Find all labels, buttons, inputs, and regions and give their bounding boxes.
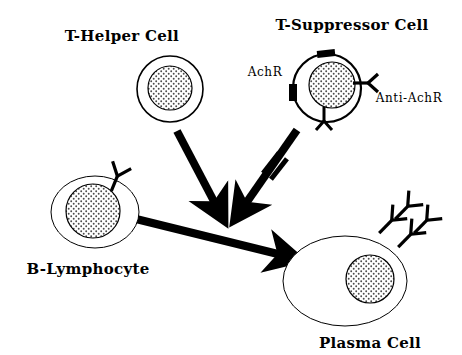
- plasma-cell-label: Plasma Cell: [319, 334, 421, 352]
- arrow-t-helper-to-differentiation: [177, 131, 218, 209]
- plasma-cell: Plasma Cell: [283, 191, 442, 352]
- t-suppressor-cell: T-Suppressor Cell AchR Anti-AchR: [247, 16, 443, 130]
- anti-achr-label: Anti-AchR: [375, 91, 443, 105]
- t-helper-cell: T-Helper Cell: [65, 27, 203, 122]
- plasma-cell-nucleus: [346, 255, 394, 303]
- arrow-group: [132, 130, 297, 256]
- b-lymphocyte-label: B-Lymphocyte: [26, 260, 149, 278]
- t-suppressor-cell-label: T-Suppressor Cell: [275, 16, 428, 34]
- b-lymphocyte-nucleus: [66, 184, 120, 238]
- t-helper-cell-nucleus: [148, 66, 192, 110]
- t-helper-cell-label: T-Helper Cell: [65, 27, 179, 45]
- diagram-canvas: T-Helper Cell T-Suppressor Cell AchR Ant…: [0, 0, 462, 355]
- arrow-b-lymphocyte-to-plasma-cell: [132, 218, 286, 256]
- immunology-diagram: T-Helper Cell T-Suppressor Cell AchR Ant…: [0, 0, 462, 355]
- b-lymphocyte: B-Lymphocyte: [26, 161, 149, 278]
- t-suppressor-cell-nucleus: [309, 62, 355, 108]
- achr-receptor-left-icon: [289, 84, 297, 101]
- achr-label: AchR: [247, 65, 283, 79]
- arrow-t-suppressor-to-differentiation: [242, 130, 297, 209]
